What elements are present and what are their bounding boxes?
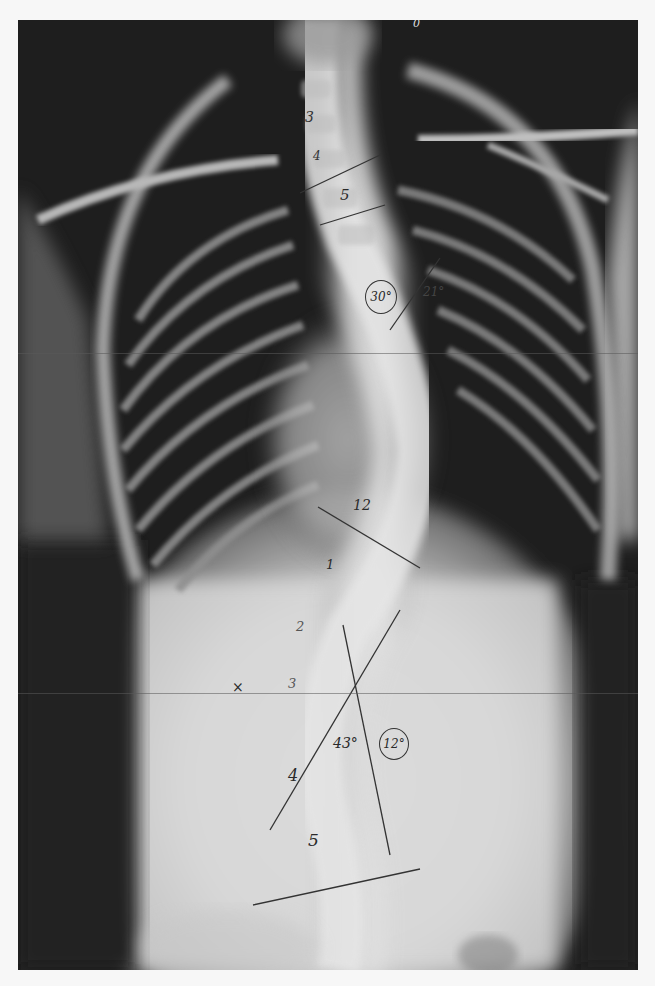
vertebra-label-l1: 1 [326,558,334,571]
vertebra-label-t4: 4 [313,150,321,162]
lumbar-angle-circled: 12° [379,728,409,760]
x-mark: × [232,680,244,694]
vertebra-label-l4: 4 [288,768,298,784]
thoracic-angle-side-label: 21° [423,286,444,298]
vertebra-label-t5: 5 [340,188,350,203]
film-fold-line-upper [18,353,638,354]
vertebra-label-t12: 12 [353,498,371,512]
thoracic-angle-circled: 30° [365,280,397,314]
thoracic-angle-value: 30° [370,291,391,303]
vertebra-label-l5: 5 [308,832,319,849]
top-mark-label: 0 [413,20,420,29]
film-fold-line-lower [18,693,638,694]
radiograph-film: 0 3 4 5 30° 21° 12 1 2 3 × 4 43° 12° 5 [18,20,638,970]
vertebra-label-t3: 3 [305,110,314,124]
lumbar-angle-circled-value: 12° [383,738,404,750]
vertebra-label-l3: 3 [288,677,296,690]
xray-anatomy [18,20,638,970]
vertebra-label-l2: 2 [296,620,304,633]
lumbar-angle-label: 43° [333,736,358,750]
